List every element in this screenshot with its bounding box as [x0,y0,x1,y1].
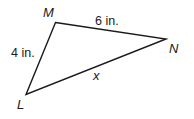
triangle-lmn [26,23,166,95]
vertex-label-m: M [43,5,54,20]
side-label-ln: x [92,68,100,83]
vertex-label-l: L [17,97,24,112]
vertex-label-n: N [169,41,179,56]
triangle-diagram: M N L 6 in. 4 in. x [0,0,194,119]
triangle-figure: M N L 6 in. 4 in. x [0,0,194,119]
side-label-ml: 4 in. [11,46,35,60]
side-label-mn: 6 in. [95,14,119,28]
